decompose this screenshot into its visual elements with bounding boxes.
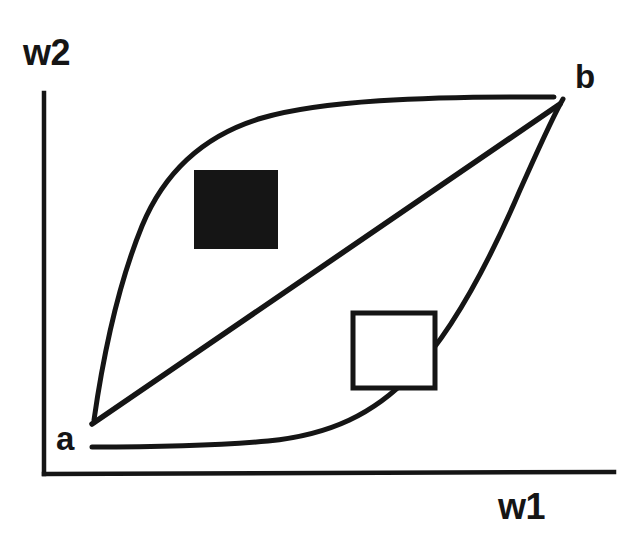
filled-square-marker: [194, 170, 278, 249]
point-label-b: b: [575, 58, 595, 96]
upper-boundary-curve: [94, 97, 554, 420]
scan-artifact-text: ︎ ︎ ︎ ︎ ︎ ︎ ︎ ︎: [0, 500, 639, 545]
x-axis-line: [44, 472, 614, 474]
diagonal-chord: [92, 104, 560, 424]
y-axis-label: w2: [23, 32, 70, 74]
point-label-a: a: [56, 420, 74, 458]
diagram-svg: [0, 0, 639, 545]
open-square-marker: [353, 313, 435, 388]
figure-canvas: w2 w1 a b ︎ ︎ ︎ ︎ ︎ ︎ ︎ ︎: [0, 0, 639, 545]
